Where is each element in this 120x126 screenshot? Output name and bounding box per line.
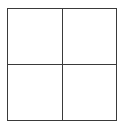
grid-cell-bottom-left bbox=[8, 65, 62, 120]
diagram-canvas bbox=[0, 0, 120, 126]
grid-cell-top-right bbox=[63, 9, 116, 64]
horizontal-divider bbox=[8, 64, 116, 65]
grid-cell-top-left bbox=[8, 9, 62, 64]
grid-cell-bottom-right bbox=[63, 65, 116, 120]
two-by-two-grid bbox=[7, 8, 117, 121]
